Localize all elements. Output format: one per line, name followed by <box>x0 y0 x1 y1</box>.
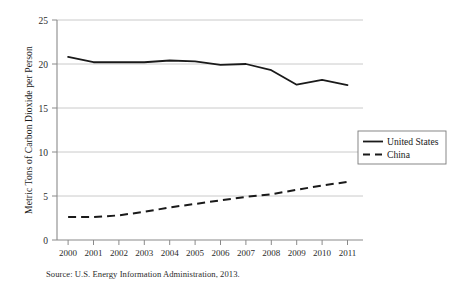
y-tick-label-25: 25 <box>39 16 49 26</box>
legend-label-china: China <box>387 149 411 160</box>
series-line-united-states <box>68 57 347 85</box>
x-tick-label-2004: 2004 <box>161 248 180 258</box>
y-tick-label-10: 10 <box>39 148 49 158</box>
y-tick-label-15: 15 <box>39 104 49 114</box>
y-tick-label-0: 0 <box>43 236 48 246</box>
x-tick-label-2010: 2010 <box>313 248 332 258</box>
source-caption: Source: U.S. Energy Information Administ… <box>46 269 240 279</box>
line-chart: 25 20 15 10 5 0 2000 2001 2002 <box>0 0 453 289</box>
chart-legend: United States China <box>358 131 446 164</box>
legend-label-united-states: United States <box>387 136 439 147</box>
y-axis-title: Metric Tons of Carbon Dioxide per Person <box>23 46 34 214</box>
y-tick-marks <box>52 20 57 240</box>
x-tick-label-2006: 2006 <box>212 248 231 258</box>
y-tick-label-20: 20 <box>39 60 49 70</box>
x-tick-label-2005: 2005 <box>186 248 205 258</box>
y-tick-labels: 25 20 15 10 5 0 <box>39 16 49 246</box>
x-tick-labels: 2000 2001 2002 2003 2004 2005 2006 2007 … <box>59 248 356 258</box>
x-tick-label-2008: 2008 <box>262 248 281 258</box>
series-line-china <box>68 182 347 217</box>
x-tick-label-2007: 2007 <box>237 248 256 258</box>
x-tick-label-2009: 2009 <box>288 248 307 258</box>
x-tick-label-2000: 2000 <box>59 248 78 258</box>
y-tick-label-5: 5 <box>43 192 48 202</box>
x-tick-label-2011: 2011 <box>339 248 357 258</box>
x-tick-marks <box>68 240 347 245</box>
gridlines <box>57 20 363 196</box>
x-tick-label-2001: 2001 <box>85 248 103 258</box>
figure-container: 25 20 15 10 5 0 2000 2001 2002 <box>0 0 453 289</box>
x-tick-label-2003: 2003 <box>135 248 154 258</box>
axes <box>57 20 363 240</box>
x-tick-label-2002: 2002 <box>110 248 128 258</box>
